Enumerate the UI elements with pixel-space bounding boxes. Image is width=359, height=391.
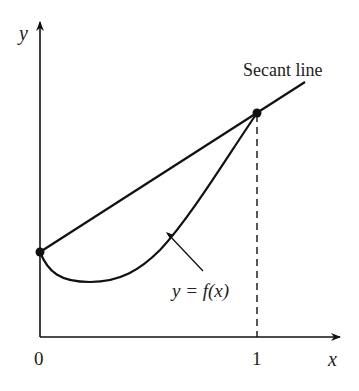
diagram-svg: y x 0 1 Secant line y = f(x) (0, 0, 359, 391)
right-endpoint-dot (253, 109, 262, 118)
curve-label-leader (168, 234, 203, 271)
x-tick-0: 0 (34, 348, 44, 369)
x-tick-1: 1 (252, 348, 262, 369)
left-endpoint-dot (36, 248, 45, 257)
x-axis-label: x (327, 348, 337, 370)
curve-label: y = f(x) (170, 280, 229, 302)
secant-line (40, 82, 305, 252)
secant-line-label: Secant line (243, 60, 322, 80)
curve-f (40, 113, 257, 282)
y-axis-label: y (17, 22, 28, 45)
leader-arrowhead-icon (166, 232, 174, 239)
secant-diagram: y x 0 1 Secant line y = f(x) (0, 0, 359, 391)
